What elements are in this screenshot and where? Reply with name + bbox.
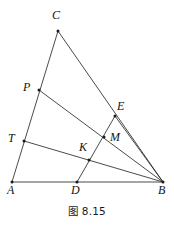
point-label-k: K: [79, 141, 87, 153]
point-dot-e: [114, 115, 117, 118]
geometry-canvas: [0, 0, 174, 227]
figure-caption: 图 8.15: [0, 203, 174, 218]
point-label-t: T: [8, 132, 15, 144]
geometry-figure: C P E T M K A D B 图 8.15: [0, 0, 174, 227]
point-label-e: E: [117, 100, 124, 112]
point-label-a: A: [7, 184, 14, 196]
segment-t-b: [24, 141, 163, 182]
point-label-m: M: [110, 131, 120, 143]
point-label-p: P: [23, 81, 30, 93]
segment-c-b: [58, 31, 163, 182]
segment-a-c: [12, 31, 58, 182]
point-label-b: B: [158, 184, 165, 196]
segment-e-b: [115, 116, 163, 182]
point-dot-m: [103, 136, 106, 139]
point-dot-c: [57, 30, 60, 33]
point-label-d: D: [71, 184, 80, 196]
point-label-c: C: [52, 9, 60, 21]
point-dot-t: [23, 140, 26, 143]
point-dot-k: [88, 159, 91, 162]
segment-p-b: [39, 90, 163, 182]
point-dot-p: [38, 89, 41, 92]
